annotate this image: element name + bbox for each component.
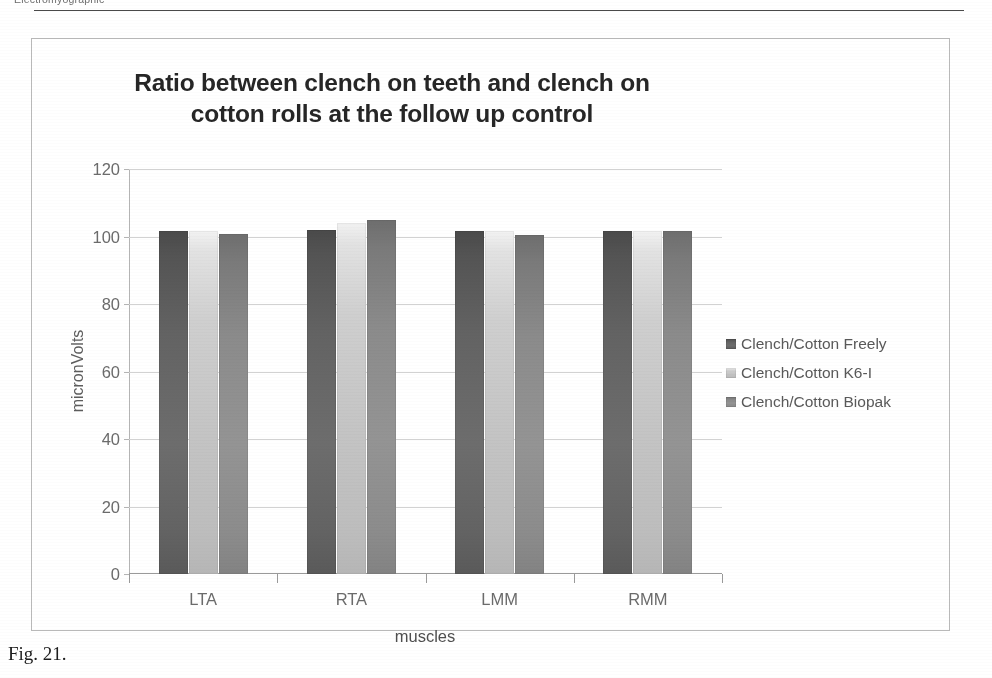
bar[interactable] xyxy=(455,231,484,574)
y-tick-label: 80 xyxy=(102,295,120,314)
y-tick-mark xyxy=(124,304,129,305)
running-header: Electromyographic xyxy=(14,0,104,5)
bar-group-lta xyxy=(159,169,248,574)
y-tick-label: 120 xyxy=(92,160,120,179)
legend-item[interactable]: Clench/Cotton Biopak xyxy=(726,393,941,411)
y-tick-mark xyxy=(124,507,129,508)
y-tick-label: 100 xyxy=(92,227,120,246)
chart-title: Ratio between clench on teeth and clench… xyxy=(92,67,692,130)
header-rule xyxy=(34,10,964,11)
bar[interactable] xyxy=(337,223,366,574)
bar-group-lmm xyxy=(455,169,544,574)
y-tick-mark xyxy=(124,169,129,170)
y-axis-title: micronVolts xyxy=(69,330,87,413)
bar[interactable] xyxy=(307,230,336,574)
bar[interactable] xyxy=(515,235,544,574)
chart-legend: Clench/Cotton FreelyClench/Cotton K6-ICl… xyxy=(726,335,941,422)
legend-swatch-icon xyxy=(726,397,736,407)
legend-item[interactable]: Clench/Cotton K6-I xyxy=(726,364,941,382)
bar[interactable] xyxy=(633,231,662,574)
x-axis-title: muscles xyxy=(395,627,456,646)
y-tick-mark xyxy=(124,439,129,440)
chart-title-line-2: cotton rolls at the follow up control xyxy=(92,98,692,129)
legend-swatch-icon xyxy=(726,368,736,378)
x-tick-mark xyxy=(129,574,130,583)
y-tick-label: 0 xyxy=(111,565,120,584)
x-tick-mark xyxy=(574,574,575,583)
x-category-label-lta: LTA xyxy=(189,590,217,609)
scanned-page: Electromyographic Ratio between clench o… xyxy=(0,0,992,678)
bar-group-rta xyxy=(307,169,396,574)
legend-label: Clench/Cotton Biopak xyxy=(741,393,891,411)
y-tick-label: 20 xyxy=(102,497,120,516)
x-category-label-lmm: LMM xyxy=(481,590,518,609)
figure-frame: Ratio between clench on teeth and clench… xyxy=(31,38,950,631)
bar[interactable] xyxy=(485,231,514,574)
bar[interactable] xyxy=(219,234,248,574)
y-tick-mark xyxy=(124,372,129,373)
legend-label: Clench/Cotton K6-I xyxy=(741,364,872,382)
y-tick-label: 60 xyxy=(102,362,120,381)
bar[interactable] xyxy=(663,231,692,574)
chart-title-line-1: Ratio between clench on teeth and clench… xyxy=(92,67,692,98)
x-tick-mark xyxy=(277,574,278,583)
x-tick-mark xyxy=(722,574,723,583)
bar-group-rmm xyxy=(603,169,692,574)
y-tick-mark xyxy=(124,237,129,238)
bar[interactable] xyxy=(603,231,632,574)
legend-item[interactable]: Clench/Cotton Freely xyxy=(726,335,941,353)
bar[interactable] xyxy=(159,231,188,574)
figure-caption: Fig. 21. xyxy=(8,643,67,665)
x-category-label-rmm: RMM xyxy=(628,590,667,609)
y-tick-label: 40 xyxy=(102,430,120,449)
plot-area: 020406080100120 LTARTALMMRMM xyxy=(129,169,722,574)
x-category-label-rta: RTA xyxy=(336,590,367,609)
bar[interactable] xyxy=(367,220,396,574)
bar[interactable] xyxy=(189,231,218,574)
legend-label: Clench/Cotton Freely xyxy=(741,335,887,353)
x-tick-mark xyxy=(426,574,427,583)
legend-swatch-icon xyxy=(726,339,736,349)
